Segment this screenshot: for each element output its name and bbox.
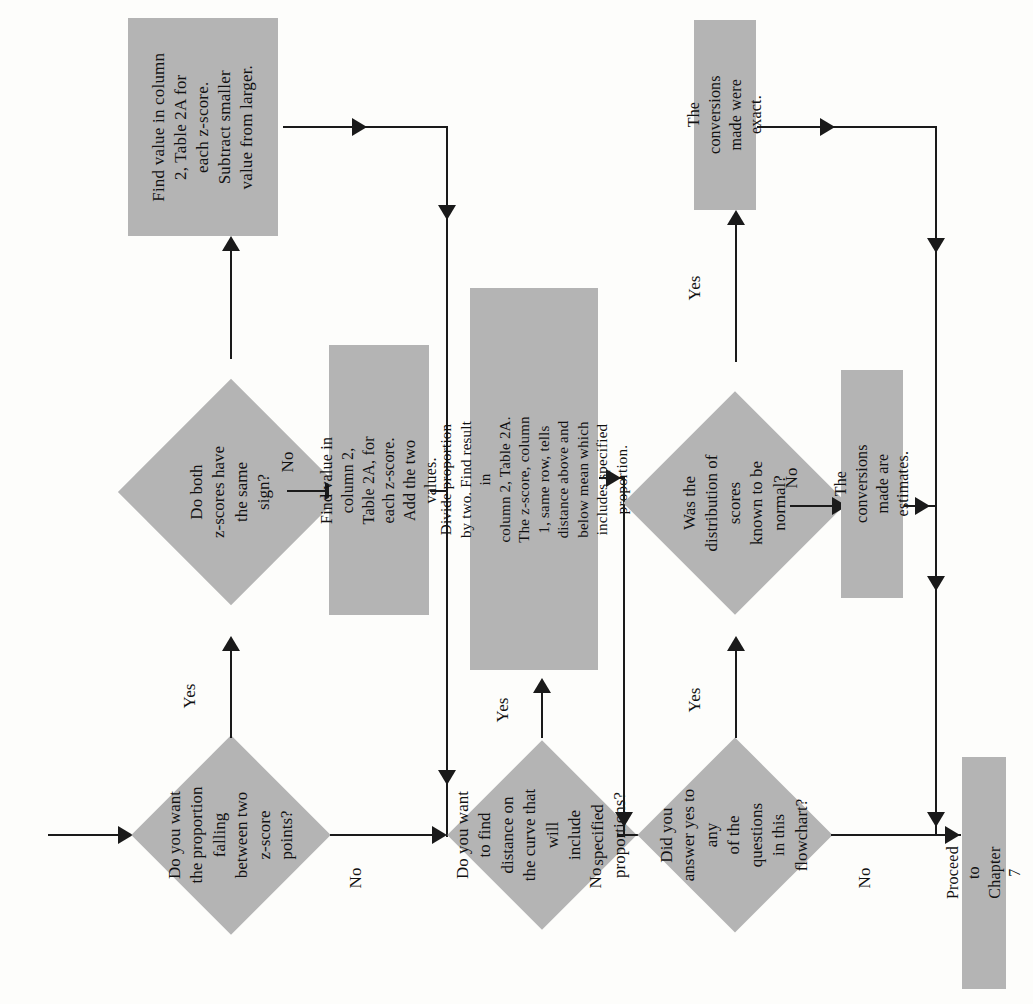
edge-d2-yes-arrowhead xyxy=(222,236,240,251)
edge-p1-arrowhead-mid xyxy=(352,118,367,136)
edge-p3-arrowhead-mid xyxy=(606,469,621,487)
terminal-proceed-chapter-7-label: Proceed to Chapter 7 xyxy=(942,847,1025,900)
process-conversions-exact[interactable]: The conversions made were exact. xyxy=(694,20,756,210)
decision-proportion-between-two-z[interactable]: Do you want the proportion falling betwe… xyxy=(131,735,331,935)
edge-d4-no-line xyxy=(831,834,961,836)
decision-proportion-between-two-z-label: Do you want the proportion falling betwe… xyxy=(164,785,299,885)
process-conversions-estimates-label: The conversions made are estimates. xyxy=(830,445,913,524)
decision-answered-yes-any[interactable]: Did you answer yes to any of the questio… xyxy=(637,735,833,935)
edge-p4-arrowhead-down-3 xyxy=(927,812,945,827)
process-divide-proportion[interactable]: Divide proportion by two. Find result in… xyxy=(470,288,598,670)
edge-d1-no-line xyxy=(330,834,440,836)
process-conversions-exact-label: The conversions made were exact. xyxy=(683,76,766,155)
edge-label-d3-no: No xyxy=(586,868,606,889)
edge-label-d5-yes: Yes xyxy=(685,276,705,301)
edge-d1-yes-line xyxy=(230,648,232,738)
edge-label-d1-yes: Yes xyxy=(180,684,200,709)
process-add-two-values[interactable]: Find value in column 2, Table 2A, for ea… xyxy=(329,345,429,615)
edge-label-d4-yes: Yes xyxy=(685,688,705,713)
edge-label-d2-no: No xyxy=(278,452,298,473)
edge-d3-yes-line xyxy=(541,690,543,738)
edge-d2-yes-line xyxy=(230,249,232,359)
process-subtract-values-label: Find value in column 2, Table 2A for eac… xyxy=(148,53,258,202)
edge-p3-line-v xyxy=(623,477,625,837)
flowchart-canvas: Do you want the proportion falling betwe… xyxy=(0,0,1033,1004)
edge-p4-arrowhead-mid xyxy=(820,118,835,136)
edge-d5-yes-arrowhead xyxy=(727,210,745,225)
edge-label-d1-no: No xyxy=(346,868,366,889)
edge-p3-arrowhead-down xyxy=(615,812,633,827)
edge-label-d5-no: No xyxy=(782,468,802,489)
process-subtract-values[interactable]: Find value in column 2, Table 2A for eac… xyxy=(128,18,278,236)
edge-label-d3-yes: Yes xyxy=(493,698,513,723)
edge-p4-line-v xyxy=(935,126,937,836)
edge-d1-no-arrowhead xyxy=(432,826,447,844)
edge-d5-yes-line xyxy=(735,222,737,362)
edge-d4-yes-arrowhead xyxy=(727,636,745,651)
edge-d3-yes-arrowhead xyxy=(533,678,551,693)
decision-distance-on-curve[interactable]: Do you want to find distance on the curv… xyxy=(447,735,637,935)
process-divide-proportion-label: Divide proportion by two. Find result in… xyxy=(437,415,632,543)
decision-same-sign[interactable]: Do both z-scores have the same sign? xyxy=(131,352,331,632)
edge-d4-no-arrowhead xyxy=(945,826,960,844)
edge-p4-arrowhead-down-2 xyxy=(927,576,945,591)
edge-p5-arrowhead xyxy=(915,497,930,515)
decision-answered-yes-any-label: Did you answer yes to any of the questio… xyxy=(656,786,813,884)
terminal-proceed-chapter-7[interactable]: Proceed to Chapter 7 xyxy=(962,757,1006,989)
process-add-two-values-label: Find value in column 2, Table 2A, for ea… xyxy=(317,430,442,530)
entry-line xyxy=(48,834,126,836)
edge-p4-arrowhead-down-1 xyxy=(927,238,945,253)
edge-d1-yes-arrowhead xyxy=(222,636,240,651)
edge-d4-yes-line xyxy=(735,648,737,738)
decision-distribution-normal[interactable]: Was the distribution of scores known to … xyxy=(637,368,833,638)
decision-distribution-normal-label: Was the distribution of scores known to … xyxy=(679,454,791,552)
decision-same-sign-label: Do both z-scores have the same sign? xyxy=(186,442,276,542)
process-conversions-estimates[interactable]: The conversions made are estimates. xyxy=(841,370,903,598)
edge-p4-line-h xyxy=(757,126,937,128)
edge-label-d4-no: No xyxy=(855,868,875,889)
